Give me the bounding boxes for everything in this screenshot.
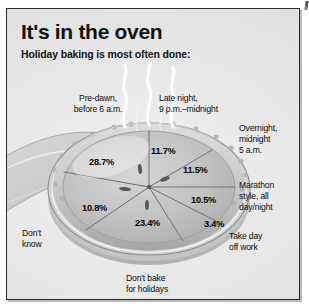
callout-label-dontbake: Don't bake for holidays bbox=[126, 273, 214, 295]
page-subtitle: Holiday baking is most often done: bbox=[21, 49, 190, 60]
chart-frame: Pre-dawn, before 6 a.m. Late night, 9 p.… bbox=[6, 8, 300, 300]
callout-label-dontknow: Don't know bbox=[22, 228, 74, 250]
slice-value-dontknow: 10.8% bbox=[82, 203, 107, 213]
slice-value-dontbake: 23.4% bbox=[135, 218, 160, 228]
callout-label-predawn: Pre-dawn, before 6 a.m. bbox=[55, 93, 141, 115]
callout-label-marathon: Marathon style, all day/night bbox=[239, 180, 300, 213]
slice-value-latenight: 11.7% bbox=[151, 146, 176, 156]
callout-label-latenight: Late night, 9 p.m.–midnight bbox=[159, 93, 255, 115]
slice-value-predawn: 28.7% bbox=[89, 157, 114, 167]
infographic-figure: Pre-dawn, before 6 a.m. Late night, 9 p.… bbox=[0, 0, 309, 307]
slice-value-marathon: 10.5% bbox=[191, 195, 216, 205]
corner-artifact-mark bbox=[304, 1, 308, 10]
slice-value-overnight: 11.5% bbox=[183, 165, 208, 175]
slice-value-takeday: 3.4% bbox=[204, 219, 224, 229]
steam-wisp-icon bbox=[123, 55, 174, 127]
callout-label-overnight: Overnight, midnight 5 a.m. bbox=[239, 123, 300, 156]
callout-label-takeday: Take day off work bbox=[229, 231, 297, 253]
page-title: It's in the oven bbox=[21, 21, 162, 42]
